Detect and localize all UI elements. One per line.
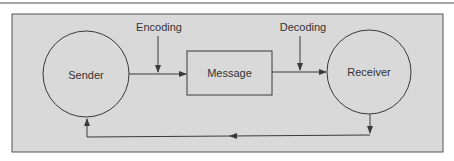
sender-label: Sender bbox=[68, 69, 104, 81]
receiver-label: Receiver bbox=[347, 66, 391, 78]
receiver-node: Receiver bbox=[327, 30, 411, 114]
message-label: Message bbox=[207, 67, 252, 79]
decoding-label: Decoding bbox=[280, 21, 326, 33]
sender-node: Sender bbox=[43, 31, 129, 117]
communication-diagram: Sender Message Receiver Encoding Decodin… bbox=[0, 0, 454, 161]
message-node: Message bbox=[187, 51, 272, 95]
encoding-label: Encoding bbox=[136, 21, 182, 33]
